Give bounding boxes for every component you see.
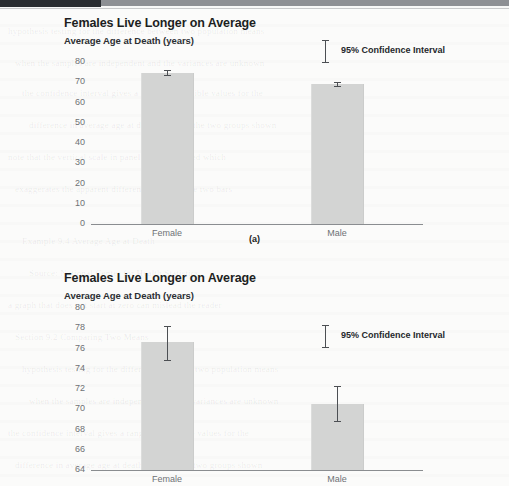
x-axis-line [91, 224, 423, 225]
legend-label: 95% Confidence Interval [341, 45, 445, 55]
legend-error-bar-icon [325, 40, 326, 62]
figure-b: Females Live Longer on Average Average A… [0, 255, 509, 486]
y-axis-tick-label: 80 [59, 302, 85, 312]
y-axis-tick-label: 50 [59, 117, 85, 127]
y-axis-tick-label: 0 [59, 218, 85, 228]
header-strip-dark-block [0, 0, 101, 7]
page-header-strip [0, 0, 509, 7]
y-axis-tick-label: 70 [59, 403, 85, 413]
x-axis-line [91, 470, 423, 471]
y-axis-tick-label: 70 [59, 76, 85, 86]
chart-title-a: Females Live Longer on Average [64, 16, 256, 30]
error-bar-cap-upper [334, 82, 341, 83]
y-axis-tick-label: 10 [59, 198, 85, 208]
header-rule [0, 8, 509, 9]
y-axis-tick-label: 40 [59, 137, 85, 147]
error-bar-cap-lower [334, 421, 341, 422]
error-bar-cap-lower [164, 360, 171, 361]
chart-title-b: Females Live Longer on Average [64, 271, 256, 285]
bar-male [311, 84, 364, 224]
y-axis-tick-label: 80 [59, 56, 85, 66]
y-axis-tick-label: 60 [59, 97, 85, 107]
y-axis-tick-label: 64 [59, 464, 85, 474]
legend-error-bar-icon [325, 325, 326, 347]
x-axis-label-female: Female [127, 474, 207, 484]
bar-female [141, 73, 194, 224]
y-axis-tick-label: 68 [59, 424, 85, 434]
figure-caption-a: (a) [0, 234, 509, 244]
error-bar-cap-upper [164, 70, 171, 71]
figure-a: Females Live Longer on Average Average A… [0, 10, 509, 243]
header-strip-gray-block [101, 0, 509, 6]
scanned-page: hypothesis testing for the difference be… [0, 0, 509, 486]
y-axis-tick-label: 76 [59, 343, 85, 353]
chart-subtitle-b: Average Age at Death (years) [64, 290, 194, 301]
chart-subtitle-a: Average Age at Death (years) [64, 35, 194, 46]
error-bar-female [167, 326, 168, 359]
error-bar-cap-lower [164, 75, 171, 76]
error-bar-cap-lower [334, 86, 341, 87]
legend-error-bar-cap-lower [322, 347, 329, 348]
y-axis-tick-label: 20 [59, 178, 85, 188]
legend-label: 95% Confidence Interval [341, 330, 445, 340]
y-axis-tick-label: 78 [59, 322, 85, 332]
y-axis-tick-label: 66 [59, 444, 85, 454]
error-bar-cap-upper [164, 326, 171, 327]
legend-error-bar-cap-upper [322, 325, 329, 326]
y-axis-tick-label: 30 [59, 157, 85, 167]
legend-error-bar-cap-lower [322, 62, 329, 63]
y-axis-tick-label: 72 [59, 383, 85, 393]
legend-error-bar-cap-upper [322, 40, 329, 41]
error-bar-male [337, 386, 338, 421]
y-axis-tick-label: 74 [59, 363, 85, 373]
x-axis-label-male: Male [297, 474, 377, 484]
bar-female [141, 342, 194, 470]
error-bar-cap-upper [334, 386, 341, 387]
